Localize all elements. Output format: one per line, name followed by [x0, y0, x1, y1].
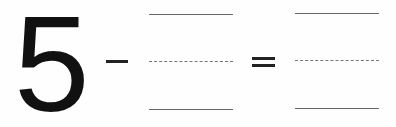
- mid-guide-line: [295, 60, 379, 61]
- minuend-digit: 5: [14, 0, 90, 127]
- equals-bar-bottom: [252, 64, 275, 67]
- top-guide-line: [295, 13, 379, 14]
- top-guide-line: [149, 14, 233, 15]
- difference-blank[interactable]: [295, 13, 379, 111]
- minus-sign: [106, 60, 128, 63]
- equals-bar-top: [252, 57, 275, 60]
- bottom-guide-line: [149, 109, 233, 110]
- bottom-guide-line: [295, 108, 379, 109]
- mid-guide-line: [149, 61, 233, 62]
- subtrahend-blank[interactable]: [149, 14, 233, 112]
